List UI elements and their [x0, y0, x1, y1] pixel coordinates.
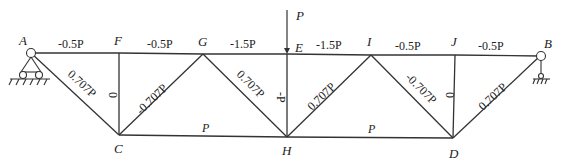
node-label-E: E	[294, 40, 303, 55]
force-IJ: -0.5P	[395, 39, 421, 53]
node-label-D: D	[448, 146, 459, 161]
member-HD	[287, 137, 453, 138]
force-CH: P	[201, 121, 210, 135]
force-HI: 0.707P	[304, 79, 338, 113]
force-EH: -P	[274, 92, 288, 103]
node-label-F: F	[113, 33, 123, 48]
force-EI: -1.5P	[316, 38, 342, 52]
force-JB: -0.5P	[478, 39, 504, 53]
node-label-C: C	[114, 141, 123, 156]
force-GH: 0.707P	[234, 67, 268, 101]
member-AC	[31, 53, 119, 135]
node-label-I: I	[366, 34, 372, 49]
force-CG: -0.707P	[133, 81, 170, 117]
node-label-H: H	[281, 143, 292, 158]
member-ID	[371, 55, 453, 138]
roller-support-icon	[9, 49, 50, 86]
node-label-A: A	[18, 33, 27, 48]
force-FC: 0	[106, 92, 120, 98]
member-CH	[119, 135, 287, 137]
truss-diagram: P A F G E I J B C H D -0.5P -0.5P -1.5P	[0, 0, 561, 167]
node-label-J: J	[451, 34, 458, 49]
force-AC: 0.707P	[65, 67, 99, 100]
member-FG	[119, 53, 203, 54]
force-ID: -0.707P	[403, 70, 440, 107]
node-label-B: B	[544, 36, 552, 51]
force-JD: 0	[443, 92, 457, 98]
force-HD: P	[367, 122, 376, 136]
node-label-G: G	[198, 34, 208, 49]
force-AF: -0.5P	[58, 37, 84, 51]
force-DB: 0.707P	[475, 80, 509, 113]
member-JB	[455, 55, 540, 56]
force-FG: -0.5P	[147, 37, 173, 51]
force-GE: -1.5P	[230, 37, 256, 51]
load-arrow-icon	[284, 10, 290, 54]
load-label: P	[295, 8, 304, 23]
